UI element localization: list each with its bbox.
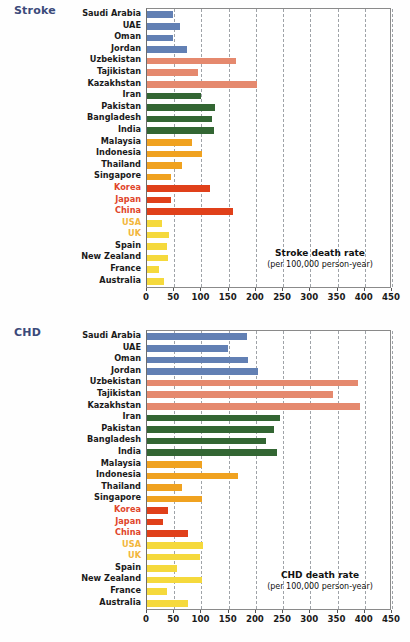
category-label: Japan <box>40 516 144 528</box>
bar <box>147 11 173 18</box>
x-tick-mark <box>200 288 201 291</box>
bar <box>147 243 167 250</box>
category-label: Thailand <box>40 159 144 171</box>
category-label: Indonesia <box>40 469 144 481</box>
bar-row <box>147 505 390 517</box>
bar-row <box>147 540 390 552</box>
bar-row <box>147 32 390 44</box>
bar-row <box>147 55 390 67</box>
bar-row <box>147 482 390 494</box>
figure-root: Stroke Saudi ArabiaUAEOmanJordanUzbekist… <box>0 0 410 642</box>
chart-panel-chd: CHD Saudi ArabiaUAEOmanJordanUzbekistanT… <box>0 322 410 642</box>
bar <box>147 415 280 422</box>
bar <box>147 185 210 192</box>
category-label: UAE <box>40 342 144 354</box>
category-label: China <box>40 527 144 539</box>
category-label: France <box>40 263 144 275</box>
chart-caption-chd: CHD death rate (per 100,000 person-year) <box>250 570 390 592</box>
category-label: Indonesia <box>40 147 144 159</box>
category-label: UK <box>40 228 144 240</box>
bar <box>147 565 177 572</box>
x-tick-label: 50 <box>167 614 179 624</box>
x-tick-mark <box>200 610 201 613</box>
x-tick-mark <box>282 610 283 613</box>
x-axis-ticks-stroke: 050100150200250300350400450 <box>146 288 391 308</box>
bar-row <box>147 331 390 343</box>
bar <box>147 438 266 445</box>
caption-title-stroke: Stroke death rate <box>250 248 390 259</box>
bar <box>147 368 258 375</box>
x-tick-label: 300 <box>300 292 318 302</box>
bar <box>147 104 215 111</box>
bar <box>147 116 212 123</box>
bar-row <box>147 551 390 563</box>
x-tick-label: 200 <box>246 614 264 624</box>
x-tick-mark <box>337 288 338 291</box>
bar-row <box>147 276 390 288</box>
caption-subtitle-stroke: (per 100,000 person-year) <box>250 259 390 270</box>
bar <box>147 577 202 584</box>
bar <box>147 484 182 491</box>
x-tick-mark <box>146 288 147 291</box>
bar <box>147 449 277 456</box>
panel-title-chd: CHD <box>14 326 41 339</box>
bar-row <box>147 148 390 160</box>
x-tick-label: 150 <box>219 614 237 624</box>
x-tick-label: 0 <box>143 292 149 302</box>
bar-row <box>147 218 390 230</box>
category-label: Bangladesh <box>40 434 144 446</box>
category-label: Uzbekistan <box>40 54 144 66</box>
category-label: Malaysia <box>40 136 144 148</box>
bar-row <box>147 160 390 172</box>
bar <box>147 69 198 76</box>
category-label: Singapore <box>40 170 144 182</box>
bar-row <box>147 377 390 389</box>
x-tick-mark <box>146 610 147 613</box>
bar-row <box>147 44 390 56</box>
bar <box>147 588 167 595</box>
bar <box>147 23 180 30</box>
bar <box>147 391 333 398</box>
category-label: Pakistan <box>40 101 144 113</box>
bar <box>147 530 188 537</box>
category-label: Tajikistan <box>40 66 144 78</box>
category-label: Thailand <box>40 481 144 493</box>
bar-row <box>147 125 390 137</box>
bar-row <box>147 102 390 114</box>
bar-row <box>147 21 390 33</box>
bar <box>147 197 171 204</box>
bar-row <box>147 528 390 540</box>
gridline <box>392 331 393 609</box>
category-label: Oman <box>40 353 144 365</box>
bar-rows-stroke <box>147 9 390 287</box>
x-tick-mark <box>391 288 392 291</box>
bar <box>147 473 238 480</box>
bar-row <box>147 206 390 218</box>
bar-row <box>147 493 390 505</box>
bar <box>147 139 192 146</box>
x-tick-mark <box>255 288 256 291</box>
bar-row <box>147 435 390 447</box>
category-label: Jordan <box>40 365 144 377</box>
bar-row <box>147 90 390 102</box>
category-label: China <box>40 205 144 217</box>
bar <box>147 403 360 410</box>
x-tick-mark <box>337 610 338 613</box>
bar <box>147 519 163 526</box>
category-label: Saudi Arabia <box>40 330 144 342</box>
x-tick-label: 100 <box>191 614 209 624</box>
bar-row <box>147 229 390 241</box>
bar <box>147 542 203 549</box>
category-label: Korea <box>40 182 144 194</box>
caption-subtitle-chd: (per 100,000 person-year) <box>250 581 390 592</box>
category-label: Korea <box>40 504 144 516</box>
bar-row <box>147 113 390 125</box>
bar-row <box>147 195 390 207</box>
bar-row <box>147 366 390 378</box>
bar-row <box>147 67 390 79</box>
bar-row <box>147 517 390 529</box>
x-tick-label: 450 <box>382 292 400 302</box>
x-tick-label: 400 <box>355 614 373 624</box>
category-label: New Zealand <box>40 251 144 263</box>
bar-row <box>147 9 390 21</box>
